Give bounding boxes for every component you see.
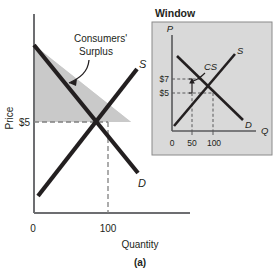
inset-demand-curve-label: D: [245, 119, 252, 130]
economics-figure: S D Consumers' Surplus Price $5 0 100 Qu…: [0, 0, 275, 272]
main-y-tick-5: $5: [19, 117, 31, 128]
main-x-axis-label: Quantity: [121, 239, 158, 250]
inset-supply-curve-label: S: [237, 45, 244, 56]
main-x-tick-0: 0: [30, 223, 36, 234]
inset-x-tick-100: 100: [207, 138, 221, 148]
consumers-surplus-label-line2: Surplus: [79, 46, 113, 57]
inset-cs-label: CS: [204, 61, 218, 72]
figure-caption: (a): [134, 257, 146, 268]
inset-y-tick-7: $7: [160, 74, 170, 84]
inset-x-axis-label: Q: [261, 125, 269, 136]
main-x-tick-100: 100: [100, 223, 117, 234]
supply-curve-label: S: [139, 58, 147, 70]
window-title: Window: [155, 7, 196, 19]
main-y-axis-label: Price: [4, 106, 15, 129]
inset-y-tick-5: $5: [160, 88, 170, 98]
figure-svg: S D Consumers' Surplus Price $5 0 100 Qu…: [0, 0, 275, 272]
inset-x-tick-0: 0: [170, 138, 175, 148]
demand-curve-label: D: [138, 177, 146, 189]
consumers-surplus-label-line1: Consumers': [74, 33, 127, 44]
inset-y-axis-label: P: [167, 23, 174, 34]
inset-x-tick-50: 50: [187, 138, 197, 148]
